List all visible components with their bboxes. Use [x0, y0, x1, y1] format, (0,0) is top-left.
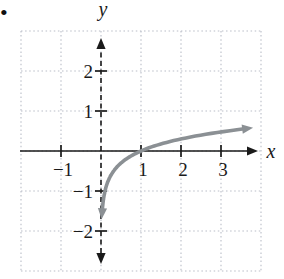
x-tick-label: −1: [53, 159, 73, 180]
x-tick-label: 2: [178, 159, 188, 180]
y-axis-bottom-arrowhead: [96, 253, 105, 264]
curve-end-arrowhead: [242, 125, 254, 134]
log-curve-chart: −112321−1−2yx: [0, 0, 284, 279]
y-tick-label: −1: [73, 181, 93, 202]
y-axis-label: y: [97, 0, 108, 21]
x-axis-label: x: [266, 140, 276, 162]
x-tick-label: 1: [138, 159, 148, 180]
y-tick-label: 1: [84, 101, 94, 122]
x-tick-label: 3: [218, 159, 228, 180]
x-axis-arrowhead: [247, 146, 258, 155]
y-tick-label: −2: [73, 221, 93, 242]
y-tick-label: 2: [84, 61, 94, 82]
y-axis-top-arrowhead: [96, 38, 105, 49]
curve-start-arrowhead: [98, 208, 107, 219]
